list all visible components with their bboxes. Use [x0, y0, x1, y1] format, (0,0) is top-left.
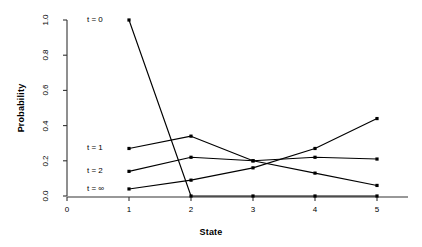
data-point: [251, 159, 254, 162]
data-point: [189, 194, 192, 197]
data-point: [313, 147, 316, 150]
data-point: [189, 135, 192, 138]
data-point: [375, 184, 378, 187]
data-point: [127, 170, 130, 173]
series-label-1: t = 1: [87, 143, 103, 152]
data-point: [313, 172, 316, 175]
data-point: [251, 166, 254, 169]
data-point: [127, 18, 130, 21]
series-label-2: t = 2: [87, 166, 103, 175]
chart-figure: Probability State 0.00.20.40.60.81.0 012…: [0, 0, 422, 247]
data-point: [375, 117, 378, 120]
data-point: [251, 194, 254, 197]
y-tick-label: 0.2: [40, 148, 52, 174]
data-point: [375, 194, 378, 197]
x-tick-label: 2: [181, 204, 201, 216]
x-tick-label: 5: [367, 204, 387, 216]
y-tick-label: 0.8: [40, 42, 52, 68]
y-axis-title: Probability: [14, 20, 28, 196]
y-tick-label: 0.0: [40, 183, 52, 209]
x-tick-label: 3: [243, 204, 263, 216]
series-line-0: [129, 20, 377, 196]
series-label-3: t = ∞: [87, 184, 104, 193]
x-tick-label: 0: [57, 204, 77, 216]
data-point: [375, 157, 378, 160]
data-point: [189, 156, 192, 159]
data-point: [127, 187, 130, 190]
x-axis-title: State: [0, 227, 422, 237]
data-point: [313, 156, 316, 159]
series-label-0: t = 0: [87, 15, 103, 24]
x-tick-label: 4: [305, 204, 325, 216]
x-tick-label: 1: [119, 204, 139, 216]
y-tick-label: 0.6: [40, 77, 52, 103]
data-point: [313, 194, 316, 197]
data-point: [189, 179, 192, 182]
data-point: [127, 147, 130, 150]
y-tick-label: 1.0: [40, 7, 52, 33]
y-tick-label: 0.4: [40, 113, 52, 139]
